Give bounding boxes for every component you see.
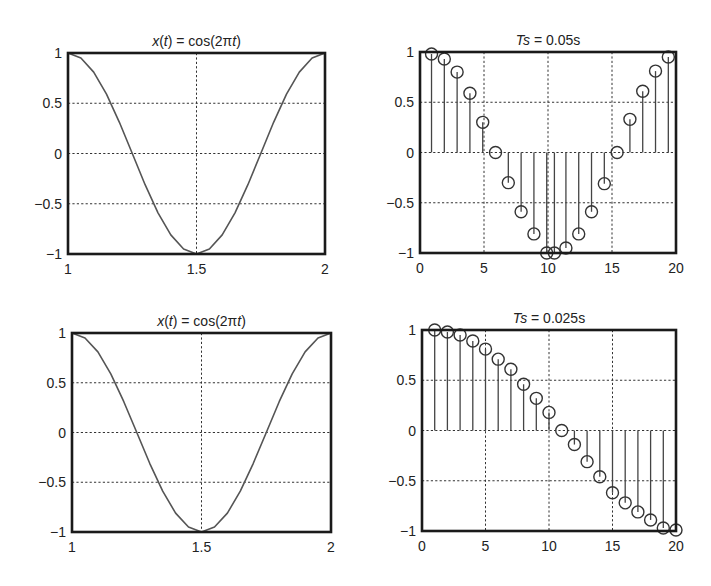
x-tick-label: 5 — [482, 538, 490, 554]
x-tick-label: 15 — [605, 538, 621, 554]
x-tick-label: 1.5 — [187, 261, 207, 277]
y-tick-label: 0 — [54, 146, 62, 162]
subplot-title: Ts = 0.05s — [516, 32, 580, 48]
grid-lines — [68, 53, 325, 254]
y-tick-label: 1 — [58, 325, 66, 341]
x-tick-label: 15 — [604, 260, 620, 276]
x-tick-label: 0 — [416, 260, 424, 276]
y-tick-label: 0.5 — [397, 372, 417, 388]
x-tick-label: 10 — [541, 538, 557, 554]
y-tick-label: 1 — [408, 322, 416, 338]
y-tick-label: −0.5 — [386, 195, 414, 211]
subplot-sampled-bottom: 10.50−0.5−105101520Ts = 0.025s — [388, 310, 684, 554]
subplot-continuous-top: 10.50−0.5−111.52x(t) = cos(2πt) — [34, 33, 329, 277]
y-tick-label: −1 — [46, 246, 62, 262]
y-tick-label: −0.5 — [34, 196, 62, 212]
x-tick-label: 1 — [68, 539, 76, 555]
grid-lines — [72, 333, 331, 532]
y-tick-label: 0.5 — [47, 375, 67, 391]
subplot-sampled-top: 10.50−0.5−105101520Ts = 0.05s — [386, 32, 684, 276]
x-tick-label: 1.5 — [192, 539, 212, 555]
stem-series — [426, 48, 675, 259]
y-tick-label: −0.5 — [38, 474, 66, 490]
x-tick-label: 0 — [418, 538, 426, 554]
x-tick-label: 20 — [668, 260, 684, 276]
y-tick-label: 0 — [406, 145, 414, 161]
subplot-title: x(t) = cos(2πt) — [156, 313, 246, 329]
y-tick-label: 0.5 — [395, 94, 415, 110]
y-tick-label: −0.5 — [388, 473, 416, 489]
y-tick-label: 0.5 — [43, 95, 63, 111]
subplot-title: x(t) = cos(2πt) — [151, 33, 241, 49]
grid-lines — [420, 52, 676, 253]
y-tick-label: −1 — [398, 245, 414, 261]
x-tick-label: 5 — [480, 260, 488, 276]
y-tick-label: 0 — [58, 425, 66, 441]
y-tick-label: −1 — [400, 523, 416, 539]
stem-series — [429, 324, 682, 536]
stem-marker — [611, 147, 623, 159]
x-tick-label: 1 — [64, 261, 72, 277]
figure-canvas: 10.50−0.5−111.52x(t) = cos(2πt)10.50−0.5… — [0, 0, 711, 586]
stem-marker — [556, 425, 568, 437]
subplot-continuous-bottom: 10.50−0.5−111.52x(t) = cos(2πt) — [38, 313, 335, 555]
figure: 10.50−0.5−111.52x(t) = cos(2πt)10.50−0.5… — [0, 0, 711, 586]
y-tick-label: 0 — [408, 423, 416, 439]
x-tick-label: 20 — [668, 538, 684, 554]
y-tick-label: 1 — [54, 45, 62, 61]
x-tick-label: 2 — [327, 539, 335, 555]
y-tick-label: −1 — [50, 524, 66, 540]
x-tick-label: 2 — [321, 261, 329, 277]
y-tick-label: 1 — [406, 44, 414, 60]
subplot-title: Ts = 0.025s — [513, 310, 585, 326]
x-tick-label: 10 — [540, 260, 556, 276]
